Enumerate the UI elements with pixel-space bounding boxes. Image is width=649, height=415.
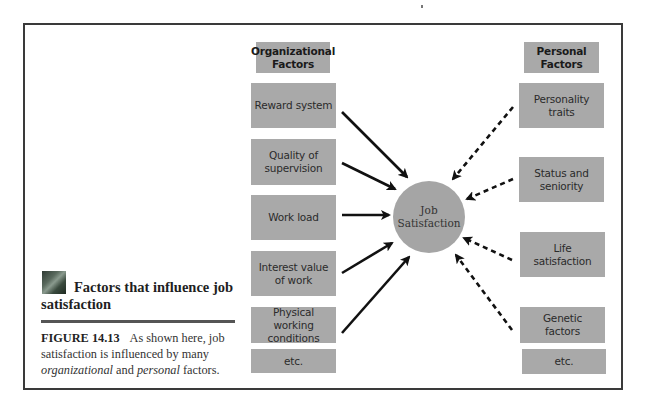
caption-divider (41, 320, 235, 323)
arrow-interest-value (342, 243, 392, 273)
figure-label: FIGURE 14.13 (41, 331, 120, 345)
dashed-arrow-personality (453, 107, 513, 179)
dashed-arrow-status (467, 179, 513, 199)
arrow-quality-of-supervision (342, 163, 395, 189)
dashed-arrow-genetic (456, 255, 512, 330)
dashed-arrow-life-satisfaction (464, 238, 512, 260)
figure-title: Factors that influence jobsatisfaction (41, 279, 241, 313)
figure-caption: FIGURE 14.13As shown here, job satisfact… (41, 330, 241, 378)
